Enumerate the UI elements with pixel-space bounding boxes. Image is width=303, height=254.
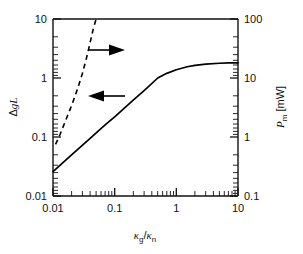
left-ytick-label-1: 1 bbox=[41, 72, 47, 84]
right-ytick-label-1: 10 bbox=[244, 72, 256, 84]
left-ytick-label-2: 0.1 bbox=[32, 131, 47, 143]
xtick-label-2: 1 bbox=[173, 202, 179, 214]
chart-figure: 10 1 0.1 0.01 100 10 1 0.1 0.01 0.1 1 10… bbox=[0, 0, 303, 254]
xtick-label-3: 10 bbox=[232, 202, 244, 214]
svg-text:ΔgL: ΔgL bbox=[7, 98, 19, 117]
chart-svg: 10 1 0.1 0.01 100 10 1 0.1 0.01 0.1 1 10… bbox=[0, 0, 303, 254]
right-axis-title-unit: [mW] bbox=[274, 86, 286, 112]
left-axis-title: ΔgL bbox=[7, 98, 19, 117]
left-ytick-label-3: 0.01 bbox=[26, 190, 47, 202]
left-ytick-label-0: 10 bbox=[35, 13, 47, 25]
x-axis-title-sub2: n bbox=[152, 235, 156, 244]
right-ytick-label-2: 1 bbox=[244, 131, 250, 143]
chart-background bbox=[0, 0, 303, 254]
right-ytick-label-3: 0.1 bbox=[244, 190, 259, 202]
left-axis-title-L: L bbox=[7, 98, 19, 105]
right-ytick-label-0: 100 bbox=[244, 13, 262, 25]
xtick-label-1: 0.1 bbox=[107, 202, 122, 214]
xtick-label-0: 0.01 bbox=[42, 202, 63, 214]
